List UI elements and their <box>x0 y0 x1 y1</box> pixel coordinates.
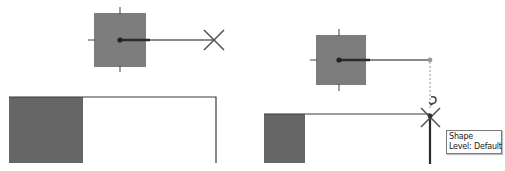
right-panel <box>264 29 440 164</box>
wall-filled-segment[interactable] <box>9 97 83 163</box>
left-panel <box>9 7 224 163</box>
snap-point-dot <box>428 114 433 119</box>
move-handle-icon[interactable] <box>117 37 122 42</box>
move-handle-icon[interactable] <box>336 57 341 62</box>
handle-endpoint-icon[interactable] <box>428 58 433 63</box>
tooltip-line-1: Shape <box>449 132 499 142</box>
hook-arrow-icon <box>430 97 436 104</box>
wall-filled-segment[interactable] <box>264 114 305 163</box>
tooltip-line-2: Level: Default <box>449 142 499 152</box>
drawing-canvas[interactable] <box>0 0 505 171</box>
snap-tooltip: Shape Level: Default <box>446 130 502 154</box>
